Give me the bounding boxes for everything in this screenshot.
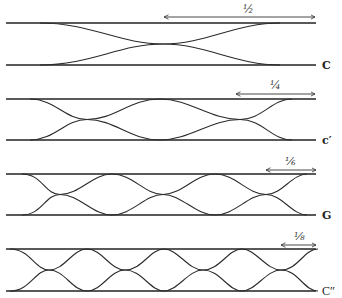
vibration-nodes-diagram: ½ C ¼ c′ ⅙ G ⅛ C″ [0,0,342,298]
wave-curve-b [30,99,292,140]
wave-curve-b [40,23,280,65]
panel-c: ½ C [6,3,331,72]
panel-c-prime: ¼ c′ [6,79,332,147]
fraction-label: ⅛ [294,230,305,243]
fraction-label: ¼ [270,79,281,92]
panel-c-double-prime: ⅛ C″ [6,230,335,298]
wave-curve-b [10,249,318,291]
note-label: c′ [322,134,332,147]
note-label: C [322,59,331,72]
wave-curve-a [30,99,292,140]
fraction-label: ⅙ [285,155,296,168]
panel-g: ⅙ G [6,155,331,222]
wave-curve-a [10,249,318,291]
wave-curve-b [22,174,307,215]
fraction-label: ½ [243,3,254,16]
note-label: C″ [322,284,335,298]
note-label: G [322,209,331,222]
